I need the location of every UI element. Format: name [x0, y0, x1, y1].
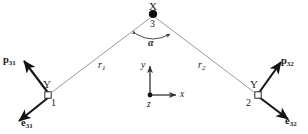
bond-label-r1-sub: 1: [102, 64, 106, 72]
vector-label-p32-sub: 32: [287, 60, 294, 68]
angle-label-alpha: α: [148, 38, 154, 48]
axis-label-z: z: [147, 100, 151, 110]
vector-label-e32-sub: 32: [290, 120, 297, 128]
vector-label-p32: p32: [281, 56, 294, 67]
molecular-geometry-diagram: X 3 Y 1 Y 2 r1 r2 α p31 e31 p32 e32 y x …: [0, 0, 308, 134]
atom-label-left-element: Y: [43, 79, 51, 90]
axis-label-y: y: [141, 61, 145, 71]
bond-label-r2-sub: 2: [202, 64, 206, 72]
bond-line-r1: [52, 18, 150, 92]
atom-label-apex-element: X: [149, 1, 157, 12]
vector-label-e31: e31: [21, 118, 33, 129]
atom-marker-right-y2: [255, 92, 261, 98]
vector-label-p31: p31: [3, 55, 16, 66]
atom-label-left-index: 1: [51, 98, 56, 108]
vector-label-p32-base: p: [281, 55, 287, 66]
vector-p32-arrow: [258, 62, 281, 94]
vector-label-e31-sub: 31: [26, 122, 33, 130]
atom-label-right-element: Y: [250, 79, 258, 90]
bond-label-r1: r1: [98, 60, 105, 70]
vector-label-e31-base: e: [21, 117, 26, 128]
atom-label-right-index: 2: [246, 98, 251, 108]
vector-label-p31-base: p: [3, 54, 9, 65]
axis-label-x: x: [180, 90, 184, 100]
bond-line-r2: [156, 18, 254, 92]
axis-z-origin-dot: [148, 93, 153, 98]
vector-e32-arrow: [259, 97, 288, 119]
vector-label-e32: e32: [285, 116, 297, 127]
atom-label-apex-index: 3: [150, 19, 155, 29]
vector-label-p31-sub: 31: [9, 59, 16, 67]
bond-label-r2: r2: [198, 60, 205, 70]
vector-label-e32-base: e: [285, 115, 290, 126]
